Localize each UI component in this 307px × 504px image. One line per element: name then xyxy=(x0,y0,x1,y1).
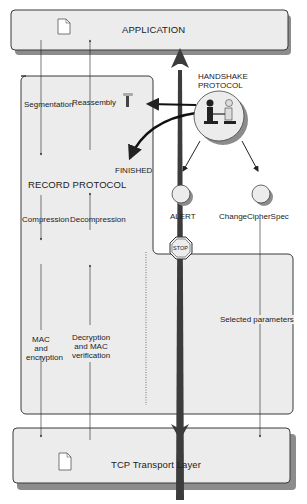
alert-node xyxy=(172,185,193,206)
handshake-icon xyxy=(194,91,248,145)
selected-parameters-label: Selected parameters xyxy=(220,315,294,324)
handshake-title-1: HANDSHAKE xyxy=(198,72,242,81)
tcp-transport-label: TCP Transport Layer xyxy=(111,460,201,469)
mac-encryption-label: MAC and encryption xyxy=(26,335,56,362)
handshake-title-2: PROTOCOL xyxy=(198,81,242,90)
handshake-to-ccs-arrow xyxy=(242,141,258,171)
document-icon-tcp xyxy=(59,453,71,470)
reassembly-label: Reassembly xyxy=(72,98,116,107)
handshake-to-reassembly-arrow xyxy=(148,104,196,105)
compression-label: Compression xyxy=(22,215,69,224)
application-label: APPLICATION xyxy=(122,25,185,34)
alert-label: ALERT xyxy=(170,212,196,221)
segmentation-label: Segmentation xyxy=(24,100,73,109)
stop-label: STOP xyxy=(173,244,188,253)
change-cipher-spec-label: ChangeCipherSpec xyxy=(219,212,289,221)
diagram-canvas xyxy=(0,0,307,504)
record-protocol-title: RECORD PROTOCOL xyxy=(28,180,126,189)
finished-label: FINISHED xyxy=(115,166,152,175)
decompression-label: Decompression xyxy=(70,215,126,224)
change-cipher-spec-node xyxy=(252,185,273,206)
handshake-to-alert-arrow xyxy=(183,141,200,171)
decryption-verification-label: Decryption and MAC verification xyxy=(71,333,111,360)
document-icon xyxy=(58,19,70,34)
